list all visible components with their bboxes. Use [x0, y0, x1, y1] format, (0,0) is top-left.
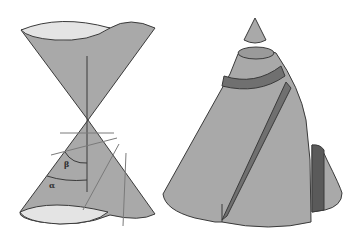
top-cap-cone	[244, 18, 266, 43]
alpha-label: α	[49, 180, 55, 190]
beta-label: β	[64, 159, 69, 169]
detached-piece-section	[312, 145, 324, 212]
frustum-top-ellipse	[238, 47, 274, 59]
diagram-canvas: β α	[0, 0, 360, 240]
sectioned-cone-figure	[163, 18, 342, 227]
main-cone-body	[163, 49, 311, 227]
double-cone-figure: β α	[20, 21, 155, 226]
